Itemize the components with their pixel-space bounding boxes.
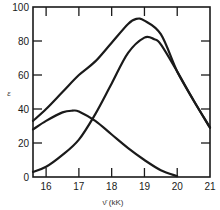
y-axis-label: ε xyxy=(7,89,11,98)
x-tick-label: 20 xyxy=(172,181,184,192)
x-tick-label: 17 xyxy=(73,181,85,192)
spectrum-chart: 161718192021 020406080100 ν̄ (kK) ε xyxy=(0,0,220,210)
x-tick-label: 21 xyxy=(204,181,216,192)
x-axis-label: ν̄ (kK) xyxy=(103,198,124,207)
y-tick-label: 80 xyxy=(18,36,30,47)
y-axis-ticks: 020406080100 xyxy=(12,2,210,183)
y-tick-label: 40 xyxy=(18,104,30,115)
data-series xyxy=(33,18,210,176)
x-tick-label: 18 xyxy=(106,181,118,192)
curve-upper xyxy=(33,18,210,127)
x-axis-ticks: 161718192021 xyxy=(41,7,216,192)
curve-lower xyxy=(33,37,210,172)
y-tick-label: 20 xyxy=(18,138,30,149)
curve-bell xyxy=(33,110,177,176)
x-tick-label: 19 xyxy=(139,181,151,192)
y-tick-label: 0 xyxy=(23,172,29,183)
y-tick-label: 60 xyxy=(18,70,30,81)
x-tick-label: 16 xyxy=(41,181,53,192)
y-tick-label: 100 xyxy=(12,2,29,13)
